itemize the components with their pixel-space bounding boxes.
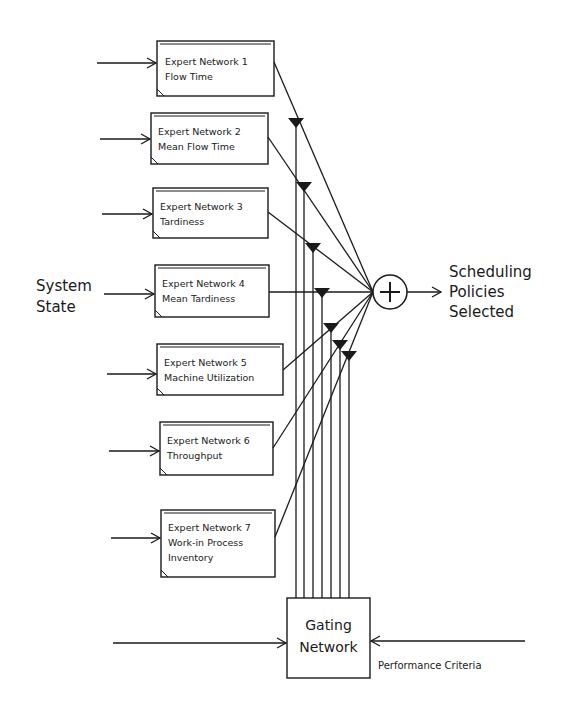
triangle-gate-icon — [341, 351, 357, 361]
expert-network-3: Expert Network 3 Tardiness — [153, 188, 268, 238]
expert-title: Expert Network 1 — [165, 56, 248, 67]
svg-text:Network: Network — [299, 639, 358, 655]
expert-network-7: Expert Network 7 Work-in Process Invento… — [161, 510, 275, 577]
svg-text:Scheduling: Scheduling — [449, 263, 532, 281]
triangle-gate-icon — [314, 288, 330, 298]
expert-output-lines — [268, 62, 373, 537]
expert-title: Expert Network 7 — [168, 522, 251, 533]
expert-subtitle: Machine Utilization — [164, 372, 254, 383]
expert-network-4: Expert Network 4 Mean Tardiness — [155, 265, 269, 317]
input-label: System State — [36, 277, 92, 316]
expert-network-1: Expert Network 1 Flow Time — [157, 41, 274, 96]
expert-title: Expert Network 2 — [158, 126, 241, 137]
expert-subtitle: Mean Flow Time — [158, 141, 235, 152]
gating-weight-lines — [296, 126, 349, 598]
svg-text:State: State — [36, 298, 76, 316]
mixture-of-experts-diagram: Expert Network 1 Flow Time Expert Networ… — [0, 0, 574, 724]
svg-text:System: System — [36, 277, 92, 295]
triangle-gate-icon — [305, 243, 321, 253]
expert-subtitle: Mean Tardiness — [162, 293, 235, 304]
expert-network-6: Expert Network 6 Throughput — [160, 422, 273, 475]
triangle-gate-icon — [296, 182, 312, 192]
svg-text:Policies: Policies — [449, 283, 505, 301]
expert-subtitle: Work-in Process — [168, 537, 243, 548]
expert-network-2: Expert Network 2 Mean Flow Time — [151, 113, 268, 164]
expert-subtitle: Throughput — [166, 450, 222, 461]
svg-text:Gating: Gating — [305, 617, 352, 633]
triangle-gate-icon — [323, 323, 339, 333]
gating-network: Gating Network — [287, 598, 370, 678]
summation-node — [373, 275, 407, 309]
expert-network-5: Expert Network 5 Machine Utilization — [157, 344, 283, 395]
expert-title: Expert Network 3 — [160, 201, 243, 212]
expert-subtitle: Tardiness — [159, 216, 204, 227]
triangle-gate-icon — [332, 340, 348, 350]
svg-text:Selected: Selected — [449, 303, 514, 321]
expert-subtitle: Flow Time — [165, 71, 213, 82]
expert-title: Expert Network 6 — [167, 435, 250, 446]
output-label: Scheduling Policies Selected — [449, 263, 532, 321]
expert-subtitle-2: Inventory — [168, 552, 214, 563]
expert-title: Expert Network 4 — [162, 278, 245, 289]
performance-criteria-label: Performance Criteria — [378, 660, 482, 671]
expert-title: Expert Network 5 — [164, 357, 247, 368]
